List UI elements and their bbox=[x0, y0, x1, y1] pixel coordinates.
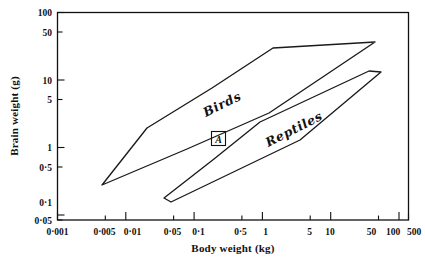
figure-chart-brain-vs-body: 0·001 0·005 0·01 0·05 0·1 0·5 1 5 10 50 … bbox=[0, 0, 425, 266]
y-tick-label: 5 bbox=[47, 95, 52, 105]
series-label-birds: Birds bbox=[200, 88, 244, 120]
y-axis-ticks bbox=[58, 13, 65, 221]
x-tick-label: 100 bbox=[386, 227, 401, 237]
x-tick-label: 10 bbox=[325, 227, 335, 237]
x-tick-label: 5 bbox=[307, 227, 312, 237]
envelope-polygon-birds bbox=[102, 42, 375, 185]
x-tick-label: 0·5 bbox=[234, 227, 247, 237]
x-tick-labels: 0·001 0·005 0·01 0·05 0·1 0·5 1 5 10 50 … bbox=[46, 227, 421, 237]
y-tick-label: 50 bbox=[43, 28, 53, 38]
x-tick-label: 50 bbox=[367, 227, 377, 237]
x-tick-label: 0·1 bbox=[192, 227, 205, 237]
x-tick-label: 0·005 bbox=[93, 227, 115, 237]
y-tick-labels: 100 50 10 5 1 0·5 0·1 0·05 bbox=[35, 8, 53, 226]
annotation-a-label: A bbox=[214, 134, 222, 145]
x-tick-label: 500 bbox=[407, 227, 422, 237]
x-tick-label: 0·01 bbox=[124, 227, 142, 237]
series-label-reptiles: Reptiles bbox=[262, 108, 325, 150]
y-tick-label: 0·1 bbox=[39, 198, 52, 208]
y-tick-label: 10 bbox=[43, 76, 53, 86]
y-axis-title: Brain weight (g) bbox=[8, 76, 21, 156]
y-tick-label: 1 bbox=[47, 143, 52, 153]
x-axis-ticks bbox=[58, 212, 409, 220]
y-tick-label: 0·05 bbox=[35, 216, 53, 226]
x-tick-label: 0·05 bbox=[164, 227, 182, 237]
y-tick-label: 0·5 bbox=[39, 163, 52, 173]
chart-canvas: 0·001 0·005 0·01 0·05 0·1 0·5 1 5 10 50 … bbox=[0, 0, 425, 266]
x-axis-title: Body weight (kg) bbox=[191, 242, 274, 255]
y-tick-label: 100 bbox=[38, 8, 53, 18]
x-tick-label: 1 bbox=[263, 227, 268, 237]
x-tick-label: 0·001 bbox=[46, 227, 68, 237]
